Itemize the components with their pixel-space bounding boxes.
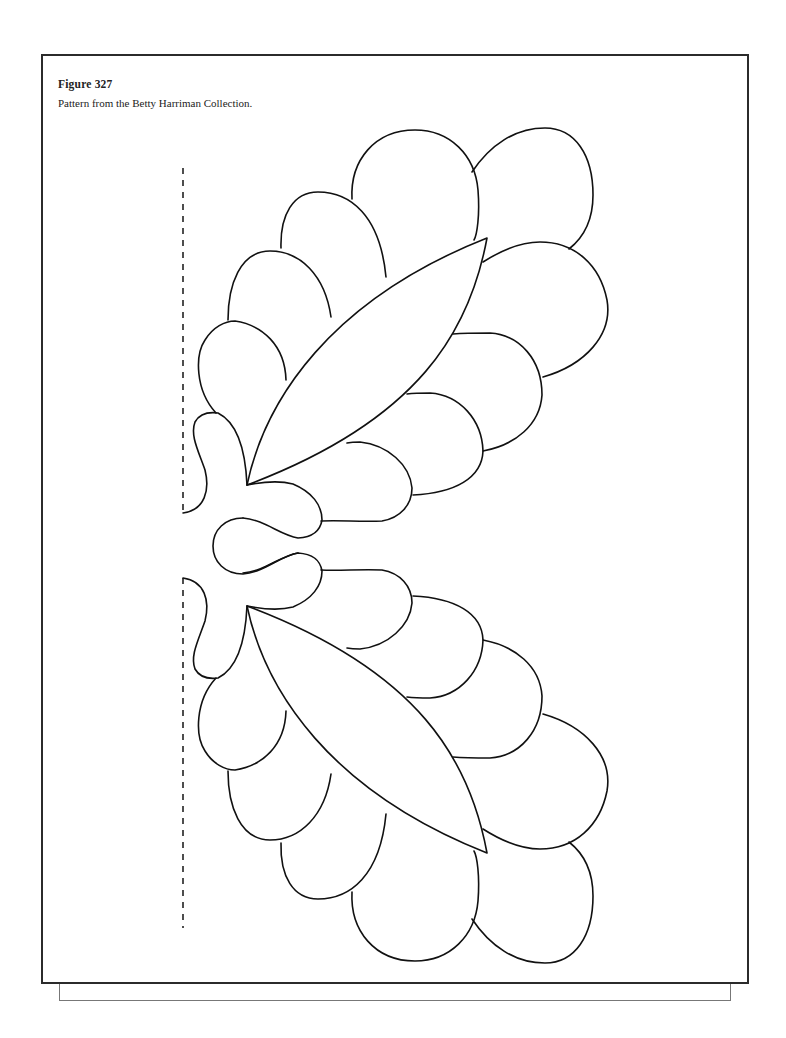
petal <box>281 192 386 277</box>
petal-lobe <box>183 413 247 513</box>
lower-pattern-half <box>183 553 608 963</box>
upper-pattern-half <box>183 128 608 538</box>
bud-knob <box>243 482 322 538</box>
petal <box>199 321 286 413</box>
petal <box>407 393 483 495</box>
petal <box>453 333 542 451</box>
center-bud <box>213 518 298 574</box>
applique-pattern <box>0 0 786 1038</box>
petal <box>321 442 412 521</box>
petal <box>228 251 331 320</box>
petal <box>472 128 593 249</box>
petal <box>483 242 608 377</box>
